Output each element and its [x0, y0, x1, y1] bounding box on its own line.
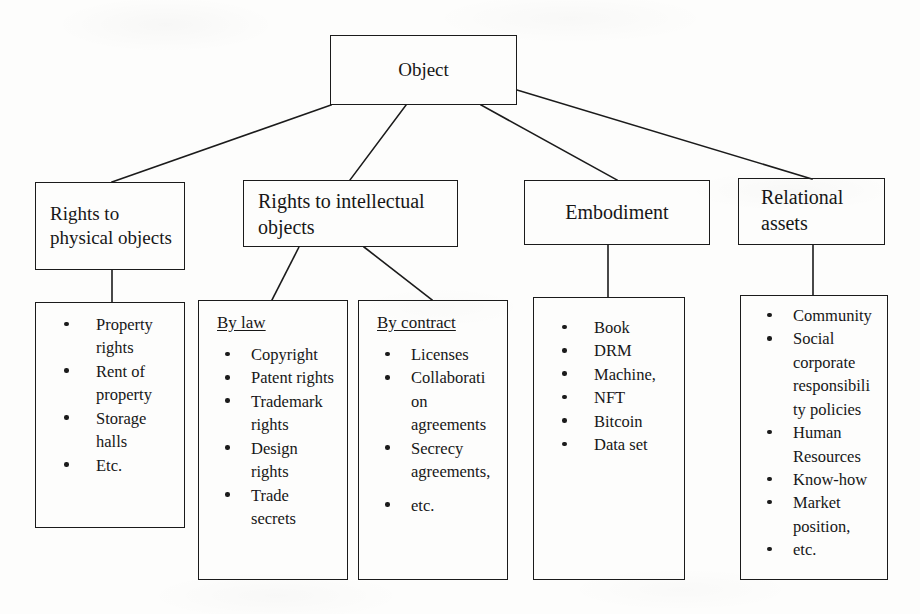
list-item: Design rights: [205, 437, 337, 484]
node-embodiment-label: Embodiment: [557, 200, 676, 226]
list-item: Market position,: [747, 491, 877, 538]
edge-object-to-relational: [517, 90, 812, 179]
list-item: Property rights: [42, 313, 174, 360]
list-box-by-contract[interactable]: By contract Licenses Collaborati on agre…: [358, 300, 508, 580]
list-item: Know-how: [747, 468, 877, 491]
list-item: Rent of property: [42, 360, 174, 407]
edge-object-to-embodiment: [481, 105, 617, 180]
list-item: NFT: [540, 386, 674, 409]
node-rights-physical-label: Rights to physical objects: [36, 202, 180, 251]
list-item: Storage halls: [42, 407, 174, 454]
list-item: Etc.: [42, 454, 174, 477]
list-item: Community: [747, 304, 877, 327]
list-box-embodiment[interactable]: Book DRM Machine, NFT Bitcoin Data set: [533, 297, 685, 580]
edge-intellectual-to-bylaw: [272, 247, 299, 300]
node-object-label: Object: [390, 58, 457, 82]
list-box-physical[interactable]: Property rights Rent of property Storage…: [35, 302, 185, 528]
list-item: Machine,: [540, 363, 674, 386]
diagram-canvas: Object Rights to physical objects Rights…: [0, 0, 920, 614]
list-item: Book: [540, 316, 674, 339]
relational-list: Community Social corporate responsibili …: [747, 304, 881, 562]
list-item: Secrecy agreements,: [365, 437, 497, 484]
list-item: Licenses: [365, 343, 497, 366]
physical-list: Property rights Rent of property Storage…: [42, 313, 178, 477]
edge-object-to-physical: [112, 105, 331, 182]
by-contract-list: Licenses Collaborati on agreements Secre…: [365, 343, 501, 517]
edge-intellectual-to-bycontract: [364, 247, 432, 300]
list-box-relational[interactable]: Community Social corporate responsibili …: [740, 295, 888, 580]
list-item: Bitcoin: [540, 410, 674, 433]
node-rights-physical[interactable]: Rights to physical objects: [35, 182, 185, 270]
list-item: DRM: [540, 339, 674, 362]
list-heading-by-law: By law: [217, 313, 266, 333]
node-relational-assets[interactable]: Relational assets: [738, 178, 885, 245]
list-item: Data set: [540, 433, 674, 456]
node-rights-intellectual[interactable]: Rights to intellectual objects: [243, 180, 458, 247]
list-box-by-law[interactable]: By law Copyright Patent rights Trademark…: [198, 300, 348, 580]
node-rights-intellectual-label: Rights to intellectual objects: [244, 189, 433, 240]
list-item: Human Resources: [747, 421, 877, 468]
list-item: Trade secrets: [205, 484, 337, 531]
list-item: Collaborati on agreements: [365, 366, 497, 436]
list-item: Copyright: [205, 343, 337, 366]
node-object[interactable]: Object: [330, 35, 517, 105]
list-item: etc.: [747, 538, 877, 561]
node-relational-assets-label: Relational assets: [739, 185, 851, 236]
by-law-list: Copyright Patent rights Trademark rights…: [205, 343, 341, 530]
list-item: Trademark rights: [205, 390, 337, 437]
list-item: Patent rights: [205, 366, 337, 389]
list-item: Social corporate responsibili ty policie…: [747, 327, 877, 421]
list-heading-by-contract: By contract: [377, 313, 456, 333]
embodiment-list: Book DRM Machine, NFT Bitcoin Data set: [540, 316, 678, 457]
edge-object-to-intellectual: [350, 105, 406, 180]
node-embodiment[interactable]: Embodiment: [524, 180, 710, 245]
list-item: etc.: [365, 494, 497, 517]
